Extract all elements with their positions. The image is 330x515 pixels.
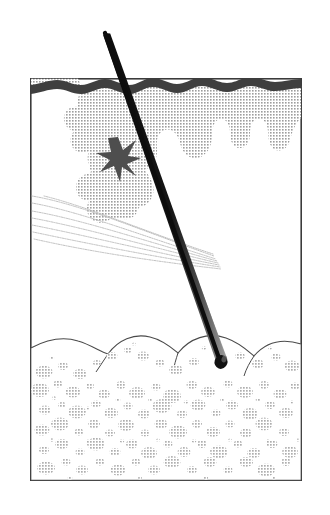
fat-cell <box>73 369 87 379</box>
fat-cell <box>197 440 207 448</box>
fat-cell <box>192 420 202 428</box>
fat-cell <box>224 381 233 388</box>
fat-cell <box>202 346 207 350</box>
fat-cell <box>240 429 252 438</box>
fat-cell <box>124 403 133 410</box>
fat-cell <box>152 384 161 391</box>
fat-cell <box>204 476 208 479</box>
fat-cell <box>266 439 270 442</box>
fat-cell <box>51 418 69 431</box>
fat-cell <box>206 427 220 437</box>
fat-cell <box>220 398 224 401</box>
fat-cell <box>138 476 142 479</box>
fat-cell <box>291 383 300 390</box>
fat-cell <box>58 362 68 370</box>
fat-cell <box>104 408 118 418</box>
skin-cross-section-figure <box>0 0 330 515</box>
fat-cell <box>164 456 181 468</box>
fat-cell <box>153 399 172 413</box>
fat-cell <box>50 356 54 359</box>
fat-cell <box>212 410 221 417</box>
fat-cell <box>132 459 141 466</box>
fat-cell <box>138 410 150 419</box>
fat-cell <box>279 408 293 418</box>
fat-cell <box>141 447 157 459</box>
fat-cell <box>239 457 253 467</box>
subcutaneous-fat-layer <box>31 336 301 480</box>
fat-cell <box>259 381 269 389</box>
fat-cell <box>66 387 81 398</box>
fat-cell <box>290 400 294 403</box>
fat-cell <box>91 401 101 408</box>
fat-cell <box>252 360 264 369</box>
fat-cell <box>124 347 132 353</box>
fat-cell <box>201 387 215 397</box>
fat-cell <box>148 466 160 475</box>
fat-cell <box>169 426 187 439</box>
fat-cell <box>256 418 273 431</box>
fat-cell <box>111 465 126 476</box>
fat-cell <box>116 398 121 402</box>
fat-cell <box>116 381 126 389</box>
illustration-page: Skin cross-section with needle insertion… <box>0 0 330 515</box>
fat-cell <box>118 419 134 431</box>
fat-cell <box>191 400 206 411</box>
fat-cell <box>76 466 88 475</box>
fat-cell <box>257 464 275 477</box>
fat-cell <box>58 402 66 408</box>
fat-cell <box>141 430 150 437</box>
fat-cell <box>50 438 54 441</box>
fat-cell <box>129 387 145 399</box>
fat-cell <box>235 353 245 360</box>
fat-cell <box>226 401 238 410</box>
fat-cell <box>204 457 217 467</box>
fat-cell <box>281 458 291 466</box>
fat-cell <box>88 420 100 429</box>
fat-cell <box>256 398 261 402</box>
fat-cell <box>36 366 53 379</box>
fat-cell <box>189 358 199 366</box>
fat-cell <box>87 438 105 451</box>
fat-cell <box>156 438 160 441</box>
fat-cell <box>226 421 235 428</box>
fat-cell <box>187 381 198 389</box>
fat-cell <box>169 365 183 375</box>
fat-cell <box>53 381 63 388</box>
fat-cell <box>178 447 191 457</box>
fat-cell <box>296 438 300 441</box>
fat-cell <box>93 360 101 366</box>
fat-cell <box>35 425 50 436</box>
fat-cell <box>224 467 233 474</box>
fat-cell <box>265 401 275 409</box>
fat-cell <box>148 398 152 401</box>
fat-cell <box>155 419 168 429</box>
fat-cell <box>242 408 258 420</box>
fat-cell <box>68 476 73 480</box>
fat-cell <box>132 342 136 345</box>
fat-cell <box>126 440 138 449</box>
fat-cell <box>228 438 232 441</box>
fat-cell <box>110 448 121 456</box>
fat-cell <box>39 446 49 454</box>
fat-cell <box>86 439 90 442</box>
fat-cell <box>68 406 86 419</box>
fat-cell <box>285 361 300 372</box>
fat-cell <box>156 360 165 367</box>
fat-cell <box>272 354 281 361</box>
fat-cell <box>37 462 55 475</box>
fat-cell <box>272 476 276 479</box>
fat-cell <box>274 389 287 399</box>
fat-cell <box>76 449 85 456</box>
fat-cell <box>31 383 49 397</box>
fat-cell <box>210 446 228 459</box>
fat-cell <box>98 390 110 399</box>
fat-cell <box>52 396 56 400</box>
fat-cell <box>192 439 197 443</box>
fat-cell <box>279 428 289 436</box>
fat-cell <box>120 439 125 443</box>
fat-cell <box>55 439 69 449</box>
fat-cell <box>237 386 253 398</box>
fat-cell <box>268 346 272 349</box>
fat-cell <box>137 352 149 361</box>
fat-cell <box>177 410 187 418</box>
